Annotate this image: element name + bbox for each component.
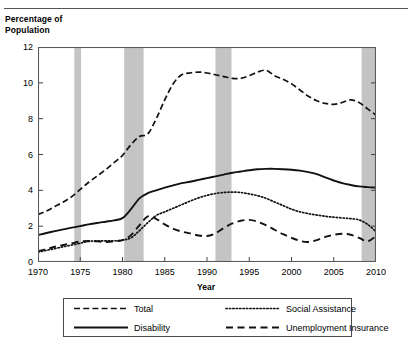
legend-line-disability xyxy=(73,323,129,332)
plot-area xyxy=(38,47,376,262)
x-tick-label: 1975 xyxy=(60,267,100,277)
y-tick-label: 0 xyxy=(7,257,33,267)
series-line-social-assistance xyxy=(38,192,376,252)
legend-item-social-assistance: Social Assistance xyxy=(216,304,353,314)
legend-label: Total xyxy=(134,304,153,314)
legend-item-disability: Disability xyxy=(64,323,216,333)
x-tick-label: 2005 xyxy=(314,267,354,277)
legend-label: Unemployment Insurance xyxy=(286,323,389,333)
x-tick-label: 1985 xyxy=(145,267,185,277)
x-tick-label: 1980 xyxy=(103,267,143,277)
legend-line-total xyxy=(73,304,129,313)
y-axis-title: Percentage of Population xyxy=(5,14,155,36)
recession-band-0 xyxy=(74,47,81,262)
legend-item-total: Total xyxy=(64,304,216,314)
header-divider xyxy=(4,8,408,9)
y-tick-label: 10 xyxy=(7,78,33,88)
chart-figure: Percentage of Population 024681012 19701… xyxy=(0,0,412,346)
legend-line-unemployment-insurance xyxy=(225,323,281,332)
plot-frame-outline xyxy=(39,48,376,262)
x-tick-label: 1990 xyxy=(187,267,227,277)
legend-label: Disability xyxy=(134,323,170,333)
recession-band-2 xyxy=(215,47,231,262)
y-tick-label: 4 xyxy=(7,185,33,195)
x-axis-title: Year xyxy=(0,282,412,292)
x-tick-label: 1970 xyxy=(18,267,58,277)
chart-canvas xyxy=(38,47,376,262)
chart-legend: TotalSocial AssistanceDisabilityUnemploy… xyxy=(63,298,352,337)
y-tick-label: 2 xyxy=(7,221,33,231)
legend-item-unemployment-insurance: Unemployment Insurance xyxy=(216,323,353,333)
legend-label: Social Assistance xyxy=(286,304,356,314)
series-line-unemployment-insurance xyxy=(38,216,376,251)
x-tick-label: 2000 xyxy=(272,267,312,277)
x-tick-label: 2010 xyxy=(356,267,396,277)
y-tick-label: 12 xyxy=(7,42,33,52)
legend-line-social-assistance xyxy=(225,304,281,313)
series-line-disability xyxy=(38,169,376,235)
x-tick-label: 1995 xyxy=(229,267,269,277)
y-tick-label: 6 xyxy=(7,150,33,160)
y-tick-label: 8 xyxy=(7,114,33,124)
series-line-total xyxy=(38,70,376,214)
